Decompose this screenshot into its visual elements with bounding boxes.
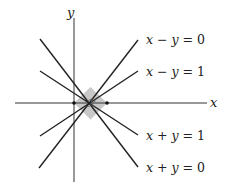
label-x-minus-y-1: x − y = 1 — [146, 64, 205, 79]
label-x-minus-y-0: x − y = 0 — [146, 32, 205, 47]
vertex-one-zero — [105, 101, 109, 105]
label-x-plus-y-0: x + y = 0 — [146, 160, 205, 175]
region-label: ℛ — [86, 97, 96, 110]
y-axis-label: y — [66, 5, 75, 20]
region-diagram: ℛ y x x − y = 0 x − y = 1 x + y = 1 x + … — [0, 0, 228, 187]
diagram-canvas: ℛ y x x − y = 0 x − y = 1 x + y = 1 x + … — [0, 0, 228, 187]
vertex-origin — [72, 101, 76, 105]
x-axis-label: x — [210, 95, 218, 110]
label-x-plus-y-1: x + y = 1 — [146, 128, 205, 143]
